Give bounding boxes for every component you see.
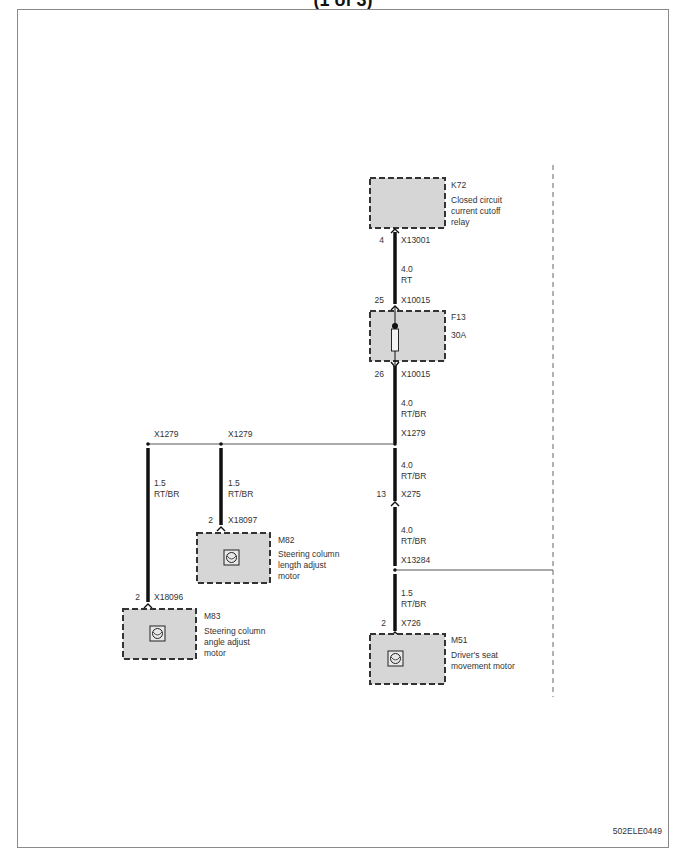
component-id: M51: [451, 635, 468, 645]
reference-code: 502ELE0449: [613, 826, 662, 836]
motor-icon: [150, 626, 165, 641]
wire-color: RT/BR: [401, 409, 426, 419]
splice-dot: [393, 568, 397, 572]
wire-size: 1.5: [228, 478, 240, 488]
connector-label: X18096: [154, 592, 184, 602]
pin-arrow-icon: [144, 604, 152, 608]
splice-label: X13284: [401, 555, 431, 565]
wire-size: 4.0: [401, 398, 413, 408]
wire-size: 4.0: [401, 460, 413, 470]
wire-size: 4.0: [401, 264, 413, 274]
fuse-icon: [392, 329, 399, 351]
wire-size: 1.5: [154, 478, 166, 488]
connector-label: X10015: [401, 369, 431, 379]
pin-number: 26: [375, 369, 385, 379]
splice-dot: [393, 442, 397, 446]
splice-dot: [146, 442, 150, 446]
pin-number: 2: [135, 592, 140, 602]
pin-number: 4: [379, 235, 384, 245]
pin-arrow-icon: [217, 527, 225, 531]
component-desc: current cutoff: [451, 206, 501, 216]
component-desc: Steering column: [278, 549, 340, 559]
splice-label: X1279: [228, 429, 253, 439]
connector-label: X10015: [401, 295, 431, 305]
wiring-diagram: K72 Closed circuit current cutoff relay …: [0, 0, 686, 852]
pin-number: 25: [375, 295, 385, 305]
component-desc: angle adjust: [204, 637, 250, 647]
wire-color: RT/BR: [401, 471, 426, 481]
wire-color: RT/BR: [401, 599, 426, 609]
component-id: M83: [204, 611, 221, 621]
component-desc: Steering column: [204, 626, 266, 636]
component-id: F13: [451, 312, 466, 322]
pin-number: 2: [381, 618, 386, 628]
wire-color: RT/BR: [228, 489, 253, 499]
wire-color: RT: [401, 275, 412, 285]
component-id: K72: [451, 180, 466, 190]
splice-label: X1279: [401, 428, 426, 438]
connector-label: X275: [401, 489, 421, 499]
motor-icon: [388, 651, 403, 666]
wire-color: RT/BR: [154, 489, 179, 499]
wire-size: 4.0: [401, 525, 413, 535]
motor-icon: [224, 550, 239, 565]
pin-number: 13: [377, 489, 387, 499]
component-desc: motor: [204, 648, 226, 658]
component-desc: Driver's seat: [451, 650, 499, 660]
splice-dot: [219, 442, 223, 446]
component-m51[interactable]: M51 Driver's seat movement motor: [370, 634, 515, 684]
component-desc: motor: [278, 571, 300, 581]
splice-label: X1279: [154, 429, 179, 439]
wire-color: RT/BR: [401, 536, 426, 546]
component-m82[interactable]: M82 Steering column length adjust motor: [197, 533, 340, 583]
component-f13-fuse[interactable]: F13 30A: [370, 307, 466, 365]
connector-label: X726: [401, 618, 421, 628]
fuse-rating: 30A: [451, 330, 466, 340]
component-desc: relay: [451, 217, 470, 227]
component-k72[interactable]: K72 Closed circuit current cutoff relay: [370, 178, 503, 228]
component-id: M82: [278, 535, 295, 545]
connector-label: X18097: [228, 515, 258, 525]
connector-label: X13001: [401, 235, 431, 245]
pin-number: 2: [208, 515, 213, 525]
component-desc: length adjust: [278, 560, 327, 570]
component-desc: movement motor: [451, 661, 515, 671]
wire-size: 1.5: [401, 588, 413, 598]
component-desc: Closed circuit: [451, 195, 503, 205]
connector-arrow-icon: [391, 502, 399, 506]
component-m83[interactable]: M83 Steering column angle adjust motor: [123, 609, 266, 659]
